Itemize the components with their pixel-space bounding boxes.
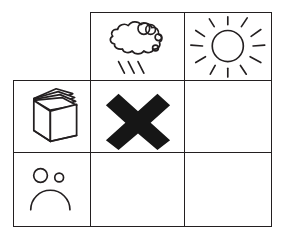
matrix-cell-r3c1[interactable]	[13, 152, 92, 228]
rain-cloud-icon	[91, 13, 185, 81]
pictorial-matrix	[0, 0, 285, 238]
open-book-icon	[14, 81, 91, 152]
matrix-cell-r1c1[interactable]	[13, 12, 90, 81]
matrix-cell-r1c3[interactable]	[184, 12, 272, 82]
sad-face-icon	[14, 153, 91, 227]
sun-icon	[185, 13, 271, 81]
matrix-cell-r2c2[interactable]	[90, 80, 186, 153]
matrix-cell-r2c3[interactable]	[184, 80, 272, 153]
matrix-cell-r1c2[interactable]	[90, 12, 186, 82]
cross-mark-icon	[91, 81, 185, 152]
matrix-cell-r3c2[interactable]	[90, 152, 186, 228]
matrix-cell-r2c1[interactable]	[13, 80, 92, 153]
matrix-cell-r3c3[interactable]	[184, 152, 272, 228]
